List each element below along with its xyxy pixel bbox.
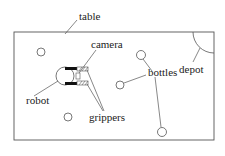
bottles-label: bottles: [148, 66, 177, 78]
grippers-leader-line-2: [87, 84, 103, 111]
grippers-leader-line-1: [87, 70, 104, 111]
bottles-leader-line-2: [124, 75, 146, 83]
gripper-bottom: [77, 81, 88, 85]
bottles-leader-line-3: [155, 77, 161, 127]
robot-top-bar: [65, 67, 77, 70]
depot-area: [193, 32, 214, 53]
bottle-1: [37, 48, 45, 56]
robot-label: robot: [26, 94, 49, 106]
world-diagram: table depot bottles: [0, 0, 225, 156]
bottle-4: [64, 113, 72, 121]
robot-bottom-bar: [65, 82, 77, 85]
bottle-5: [158, 128, 167, 137]
table-label: table: [79, 10, 100, 22]
depot-label: depot: [179, 63, 203, 75]
camera-leader-line: [79, 50, 96, 73]
grippers-label: grippers: [89, 111, 125, 123]
bottle-2: [137, 51, 146, 60]
robot: [56, 67, 88, 85]
robot-camera: [76, 73, 80, 79]
bottle-3: [116, 81, 124, 89]
depot-leader-line: [193, 48, 200, 62]
gripper-top: [77, 67, 88, 71]
camera-label: camera: [91, 38, 123, 50]
